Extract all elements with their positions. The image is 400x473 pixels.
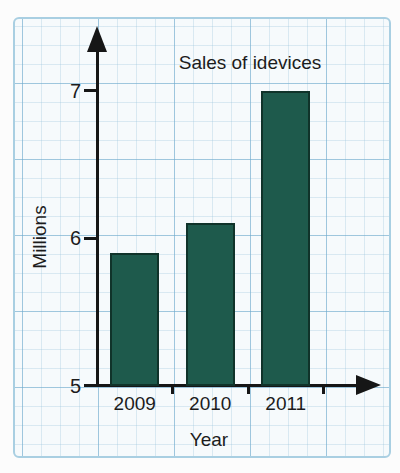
x-axis-arrowhead-icon — [356, 375, 381, 395]
x-tick-label-2010: 2010 — [189, 393, 231, 415]
x-tick-mark-2010 — [247, 385, 250, 394]
bar-2009 — [110, 253, 159, 386]
y-axis — [96, 42, 99, 387]
chart-title: Sales of idevices — [160, 52, 340, 74]
bar-chart: Sales of idevices Millions Year 567 2009… — [0, 0, 400, 473]
x-tick-mark-2011 — [322, 385, 325, 394]
x-tick-mark-2009 — [171, 385, 174, 394]
y-tick-mark-7 — [84, 89, 97, 92]
x-axis-label: Year — [190, 429, 228, 451]
y-tick-label-6: 6 — [46, 227, 81, 250]
y-tick-label-5: 5 — [46, 374, 81, 397]
y-tick-mark-6 — [84, 237, 97, 240]
bar-2011 — [261, 91, 310, 386]
bar-2010 — [186, 223, 235, 385]
chart-figure: Sales of idevices Millions Year 567 2009… — [0, 0, 400, 473]
y-tick-label-7: 7 — [46, 79, 81, 102]
x-tick-label-2009: 2009 — [114, 393, 156, 415]
x-tick-label-2011: 2011 — [265, 393, 306, 415]
y-tick-mark-5 — [84, 384, 97, 387]
